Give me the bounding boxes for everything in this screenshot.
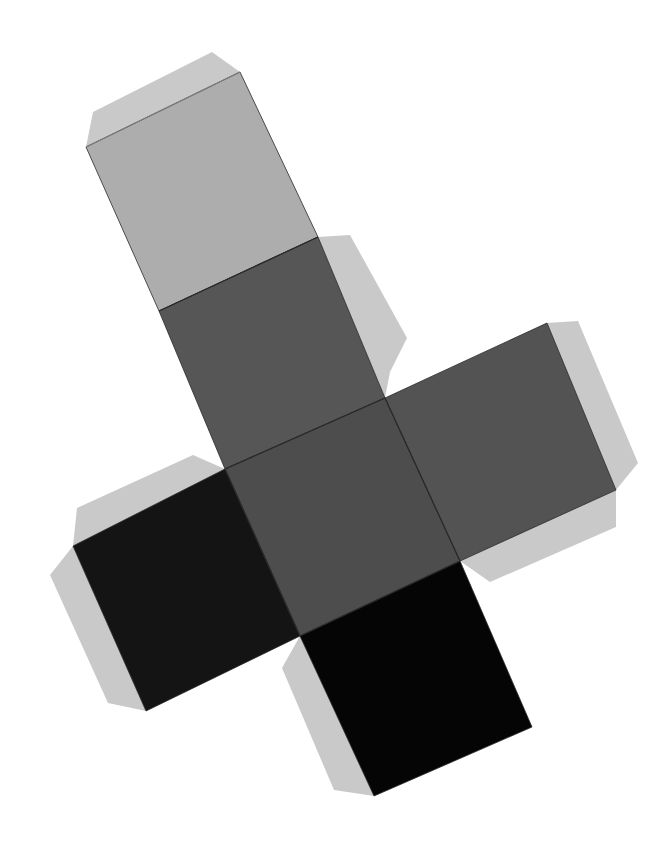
cube-net	[0, 0, 667, 844]
cube-faces	[73, 72, 616, 796]
photo-canvas: Grayscale paper cutout of an unfolded cu…	[0, 0, 667, 844]
